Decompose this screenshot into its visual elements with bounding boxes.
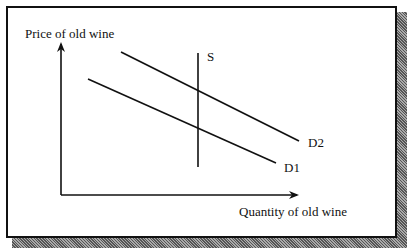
- y-axis-label: Price of old wine: [25, 26, 114, 41]
- x-axis-label: Quantity of old wine: [239, 204, 347, 219]
- supply-label: S: [207, 49, 214, 64]
- demand-curve-d1: [88, 79, 276, 163]
- supply-demand-diagram: Price of old wine S D2 D1 Quantity of ol…: [0, 0, 407, 252]
- demand1-label: D1: [284, 160, 300, 175]
- demand2-label: D2: [308, 135, 324, 150]
- demand-curve-d2: [121, 52, 299, 141]
